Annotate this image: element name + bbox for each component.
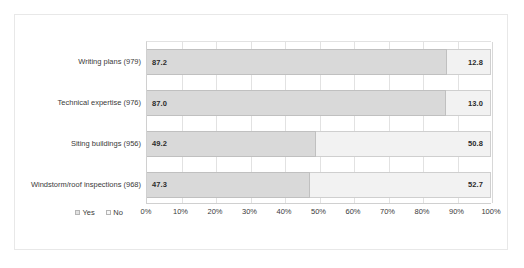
category-label: Writing plans (979) bbox=[78, 49, 141, 75]
bar-value-label: 52.7 bbox=[468, 180, 483, 189]
bar-segment-yes[interactable]: 87.0 bbox=[147, 90, 446, 116]
x-tick-label: 0% bbox=[141, 207, 152, 216]
bar-value-label: 13.0 bbox=[468, 99, 483, 108]
x-tick-label: 70% bbox=[380, 207, 395, 216]
plot-area: Writing plans (979)87.212.8Technical exp… bbox=[146, 41, 491, 204]
bar-segment-no[interactable]: 13.0 bbox=[446, 90, 491, 116]
x-tick-label: 50% bbox=[311, 207, 326, 216]
x-axis: 0%10%20%30%40%50%60%70%80%90%100% bbox=[146, 205, 491, 219]
bar-track: 47.352.7 bbox=[147, 172, 491, 198]
bar-segment-no[interactable]: 12.8 bbox=[447, 49, 491, 75]
x-tick-label: 80% bbox=[414, 207, 429, 216]
bar-segment-no[interactable]: 50.8 bbox=[316, 131, 491, 157]
legend-swatch-icon bbox=[106, 210, 111, 215]
legend-item-no[interactable]: No bbox=[106, 208, 123, 217]
bar-track: 87.013.0 bbox=[147, 90, 491, 116]
bar-value-label: 47.3 bbox=[152, 180, 167, 189]
category-label: Siting buildings (956) bbox=[71, 131, 141, 157]
legend-swatch-icon bbox=[75, 210, 80, 215]
bar-value-label: 87.2 bbox=[152, 58, 167, 67]
x-tick-label: 40% bbox=[276, 207, 291, 216]
bar-segment-no[interactable]: 52.7 bbox=[310, 172, 491, 198]
bar-value-label: 49.2 bbox=[152, 139, 167, 148]
x-tick-label: 100% bbox=[481, 207, 500, 216]
bar-value-label: 87.0 bbox=[152, 99, 167, 108]
x-tick-label: 90% bbox=[449, 207, 464, 216]
category-label: Windstorm/roof inspections (968) bbox=[31, 172, 141, 198]
bar-row: Technical expertise (976)87.013.0 bbox=[147, 90, 491, 116]
bar-segment-yes[interactable]: 49.2 bbox=[147, 131, 316, 157]
x-tick-label: 10% bbox=[173, 207, 188, 216]
bar-segment-yes[interactable]: 87.2 bbox=[147, 49, 447, 75]
legend-label: No bbox=[113, 208, 123, 217]
bar-row: Windstorm/roof inspections (968)47.352.7 bbox=[147, 172, 491, 198]
bar-value-label: 12.8 bbox=[468, 58, 483, 67]
x-tick-label: 60% bbox=[345, 207, 360, 216]
x-tick-label: 30% bbox=[242, 207, 257, 216]
bar-track: 87.212.8 bbox=[147, 49, 491, 75]
x-tick-label: 20% bbox=[207, 207, 222, 216]
chart-frame: Writing plans (979)87.212.8Technical exp… bbox=[14, 14, 508, 250]
legend-item-yes[interactable]: Yes bbox=[75, 208, 95, 217]
legend-label: Yes bbox=[83, 208, 95, 217]
bar-row: Siting buildings (956)49.250.8 bbox=[147, 131, 491, 157]
gridline-100 bbox=[492, 42, 493, 203]
bar-segment-yes[interactable]: 47.3 bbox=[147, 172, 310, 198]
bar-track: 49.250.8 bbox=[147, 131, 491, 157]
bar-value-label: 50.8 bbox=[468, 139, 483, 148]
bar-row: Writing plans (979)87.212.8 bbox=[147, 49, 491, 75]
chart-legend: YesNo bbox=[75, 205, 123, 219]
category-label: Technical expertise (976) bbox=[58, 90, 141, 116]
